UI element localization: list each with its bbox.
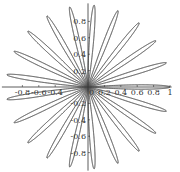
x-tick-label: 0.8 (147, 88, 160, 97)
polar-rose-chart: -0.8-0.6-0.40.20.40.60.810.80.60.40.2-0.… (0, 0, 180, 172)
x-tick-label: -0.4 (47, 88, 62, 97)
y-tick-label: -0.6 (71, 132, 86, 141)
y-tick-label: 0.6 (73, 34, 86, 43)
y-tick-label: 0.8 (73, 17, 86, 26)
origin-label: 0 (89, 88, 94, 97)
y-tick-label: 0.4 (73, 50, 86, 59)
x-tick-label: -0.8 (15, 88, 30, 97)
y-tick-label: -0.4 (71, 116, 86, 125)
x-tick-label: -0.6 (31, 88, 46, 97)
y-tick-label: 0.2 (73, 67, 86, 76)
x-tick-label: 0.2 (98, 88, 111, 97)
axes (2, 3, 172, 170)
x-tick-label: 1 (167, 88, 172, 97)
x-tick-label: 0.4 (114, 88, 127, 97)
x-tick-label: 0.6 (131, 88, 144, 97)
y-tick-label: -0.2 (71, 99, 86, 108)
y-tick-label: -0.8 (71, 149, 86, 158)
